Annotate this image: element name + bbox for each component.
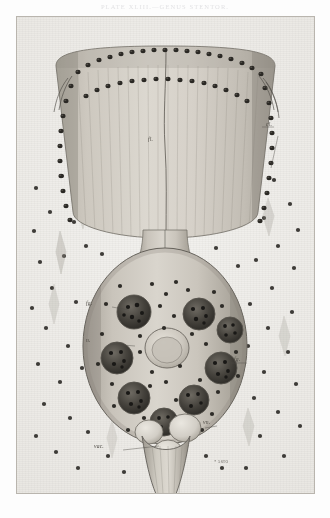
organism-illustration bbox=[16, 16, 315, 494]
label-fg-right: fg. bbox=[234, 356, 240, 362]
label-n: n. bbox=[86, 337, 91, 343]
plate-number: * 5693 bbox=[214, 459, 228, 464]
label-fl: fl. bbox=[148, 136, 153, 142]
engraving-plate: cl. fl. fg. n. fg. vn. vac. * 5693 bbox=[16, 16, 315, 494]
label-cl: cl. bbox=[266, 121, 272, 127]
nucleus bbox=[145, 328, 189, 368]
plate-caption bbox=[16, 498, 315, 512]
label-vn: vn. bbox=[203, 419, 210, 425]
running-head: PLATE XLIII.—GENUS STENTOR. bbox=[0, 0, 330, 14]
plate-page: PLATE XLIII.—GENUS STENTOR. bbox=[0, 0, 330, 518]
label-fg-left: fg. bbox=[86, 300, 92, 306]
label-vac: vac. bbox=[94, 443, 104, 449]
peristome-cup bbox=[56, 46, 278, 241]
